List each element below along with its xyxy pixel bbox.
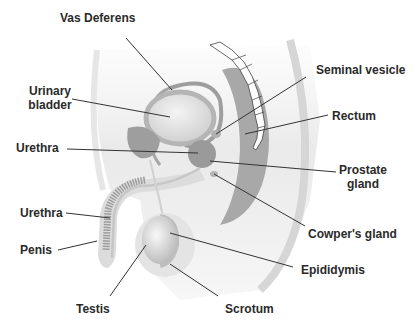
label-prostate-line1: Prostate <box>338 163 388 177</box>
label-urethra-lower: Urethra <box>20 206 63 220</box>
label-prostate-gland: Prostate gland <box>338 163 388 191</box>
label-scrotum: Scrotum <box>225 302 274 316</box>
label-urinary-bladder-line2: bladder <box>26 98 74 112</box>
prostate-shape <box>188 140 216 168</box>
label-penis: Penis <box>20 243 52 257</box>
label-prostate-line2: gland <box>338 177 388 191</box>
label-urinary-bladder: Urinary bladder <box>26 84 74 112</box>
label-vas-deferens: Vas Deferens <box>60 11 135 25</box>
label-testis: Testis <box>76 302 110 316</box>
label-urethra-upper: Urethra <box>16 141 59 155</box>
label-rectum: Rectum <box>332 109 376 123</box>
testis-shape <box>142 216 178 264</box>
body-silhouette <box>97 45 320 300</box>
label-cowpers-gland: Cowper's gland <box>308 227 397 241</box>
label-seminal-vesicle: Seminal vesicle <box>316 63 405 77</box>
label-urinary-bladder-line1: Urinary <box>26 84 74 98</box>
label-epididymis: Epididymis <box>301 263 365 277</box>
